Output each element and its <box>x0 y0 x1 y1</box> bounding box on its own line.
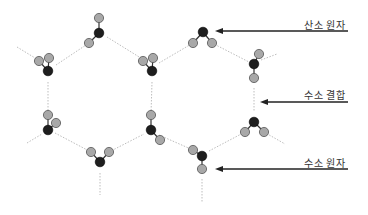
hydrogen-atom <box>188 38 197 47</box>
covalent-bond-lines <box>39 18 264 169</box>
water-molecule <box>84 13 103 47</box>
hydrogen-atom <box>197 164 206 173</box>
water-molecule <box>188 27 216 47</box>
hydrogen-atom <box>138 56 147 65</box>
oxygen-atom <box>249 59 259 69</box>
oxygen-atom <box>43 66 53 76</box>
hydrogen-bond-line <box>212 43 249 62</box>
hydrogen-atom <box>207 38 216 47</box>
water-molecule <box>43 110 60 134</box>
hydrogen-atom <box>254 49 263 58</box>
hydrogen-bond-line <box>27 134 42 143</box>
hydrogen-atom <box>34 56 43 65</box>
hydrogen-atom <box>94 13 103 22</box>
hydrogen-atom <box>51 118 60 127</box>
hexagonal-ice-diagram: 산소 원자 수소 결합 수소 원자 <box>0 0 368 215</box>
oxygen-atom <box>146 125 156 135</box>
water-molecule-lattice <box>0 0 368 215</box>
arrowhead-icon <box>215 28 223 34</box>
hydrogen-bond-line <box>56 43 89 65</box>
hydrogen-atom <box>240 127 249 136</box>
water-molecule <box>249 49 263 82</box>
hydrogen-bond-line <box>109 134 144 152</box>
oxygen-atom <box>198 27 208 37</box>
oxygen-atom <box>249 117 259 127</box>
arrowhead-icon <box>260 99 268 105</box>
water-molecule <box>138 53 157 75</box>
arrowhead-icon <box>215 166 223 172</box>
water-molecule <box>240 117 268 136</box>
hydrogen-bond-line <box>107 37 144 60</box>
water-molecule <box>86 147 113 166</box>
hydrogen-bond-line <box>209 132 245 151</box>
hydrogen-atom <box>104 147 113 156</box>
hydrogen-atom <box>43 110 52 119</box>
hydrogen-atom <box>249 73 258 82</box>
hydrogen-bond-line <box>159 43 193 63</box>
hydrogen-atom <box>44 53 53 62</box>
water-molecule <box>146 110 164 144</box>
hydrogen-atom <box>188 145 197 154</box>
hydrogen-atom <box>146 110 155 119</box>
hydrogen-bond-line <box>151 82 152 114</box>
oxygen-atom <box>197 151 207 161</box>
hydrogen-atom <box>259 127 268 136</box>
hydrogen-atom <box>148 53 157 62</box>
hydrogen-atom-label: 수소 원자 <box>304 155 345 170</box>
hydrogen-atom <box>86 147 95 156</box>
oxygen-atom <box>43 125 53 135</box>
hydrogen-bond-label: 수소 결합 <box>304 87 345 102</box>
hydrogen-atom <box>155 135 164 144</box>
atoms <box>34 13 268 173</box>
hydrogen-atom <box>84 38 93 47</box>
hydrogen-bond-line <box>55 133 91 152</box>
oxygen-atom <box>95 157 105 167</box>
oxygen-atom-label: 산소 원자 <box>304 17 345 32</box>
oxygen-atom <box>147 66 157 76</box>
water-molecule <box>34 53 53 75</box>
oxygen-atom <box>94 28 104 38</box>
water-molecule <box>188 145 206 173</box>
